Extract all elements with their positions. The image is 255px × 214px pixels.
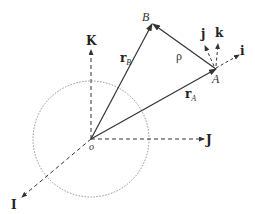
i-axis [216,55,239,68]
label-B: B [142,10,150,24]
vector-diagram: B A o K J I i j k ρ rB rA [0,0,255,214]
label-rA: rA [185,87,196,103]
label-A: A [211,72,220,86]
label-I: I [11,198,17,212]
rho-vector [153,24,216,69]
label-K: K [86,34,97,48]
k-axis [216,44,218,66]
j-axis [205,46,214,66]
label-j: j [200,27,205,41]
label-rB: rB [120,51,131,67]
I-axis [22,139,91,197]
label-i: i [240,44,245,58]
label-origin: o [89,141,94,152]
label-J: J [205,133,212,147]
label-k: k [215,26,224,40]
label-rho: ρ [176,49,182,63]
